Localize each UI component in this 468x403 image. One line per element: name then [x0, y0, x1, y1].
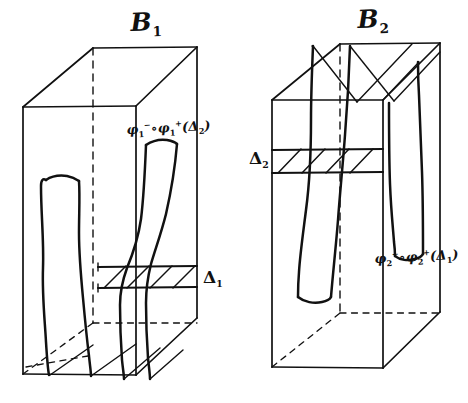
figure-root: B1 B2 φ1−∘φ1+(Δ2) φ2−∘φ2+(Δ1) Δ1 Δ2	[0, 0, 468, 403]
box-2-top-face-tube-a-line-2	[350, 46, 394, 101]
box-1-top-diagonal-edge	[136, 47, 197, 106]
box-1-right-tube-cap	[146, 140, 177, 145]
box-2-tube-a-bottom-cap	[298, 297, 331, 303]
box-1-bottom-face-line-a	[50, 345, 93, 375]
box-2-top-face-tube-b-line-3	[394, 52, 440, 101]
box-2-tube-b-left-wall	[389, 103, 395, 256]
box-1-right-tube-right-wall	[146, 144, 177, 379]
box-2-slab-top-edge	[272, 149, 383, 150]
box-1-left-tube-left-wall	[41, 179, 49, 375]
box-2-back-bottom-left-dashed	[272, 313, 340, 367]
box-2-top-left-edge	[272, 44, 340, 100]
box-1-back-bottom-left-dashed	[23, 323, 93, 374]
box-1-top-left-edge	[23, 48, 93, 107]
box-2-top-back-edge	[340, 43, 440, 44]
box-1-title-label: B1	[130, 7, 163, 40]
box-2-top-face-tube-b-line-2	[357, 44, 412, 102]
box-1-bottom-face-line-d	[150, 350, 183, 379]
box-1-right-tube	[120, 140, 177, 379]
box-2-front-bottom-edge	[272, 367, 383, 368]
box-2-tube-b-right-wall	[418, 62, 423, 254]
figure-drawing	[0, 0, 468, 403]
box-1-top-front-edge	[23, 106, 136, 107]
box-2-right-bottom-edge	[383, 312, 440, 368]
box-2-title-label: B2	[357, 4, 390, 37]
box-1-top-back-edge	[93, 47, 197, 48]
box-1-slab-label-delta-1: Δ1	[203, 267, 223, 289]
box-2-slab-hatching	[278, 149, 373, 173]
box-1-right-tube-left-wall	[120, 145, 146, 379]
box-2-group	[272, 43, 440, 368]
box-2-tube-b	[389, 62, 423, 260]
box-2-tube-a-left-wall	[298, 46, 313, 297]
box-2-tube-a	[298, 46, 350, 303]
box-1-front-bottom-edge	[23, 374, 136, 375]
box-2-slab-label-delta-2: Δ2	[249, 148, 269, 170]
box-1-left-tube-cap	[46, 176, 79, 181]
box-1-bottom-face-line-b	[91, 344, 136, 376]
box-1-group	[23, 47, 197, 379]
box-1-left-tube	[41, 176, 91, 376]
box-2-slab-delta-2	[272, 149, 383, 173]
box-1-left-tube-right-wall	[79, 181, 91, 376]
